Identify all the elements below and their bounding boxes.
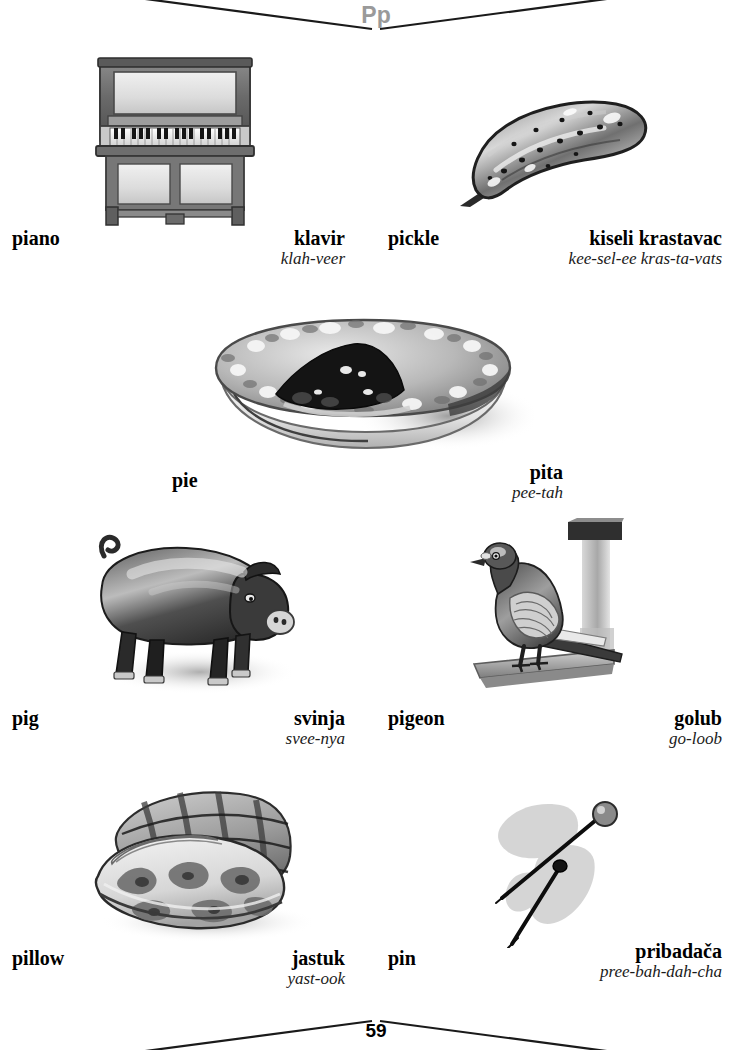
caption-pie-translation: pita pee-tah <box>380 462 563 502</box>
caption-pigeon-translation: golub go-loob <box>380 708 722 748</box>
caption-pig-translation: svinja svee-nya <box>0 708 345 748</box>
word-translation-kiseli-krastavac: kiseli krastavac <box>380 228 722 249</box>
caption-pin-translation: pribadača pree-bah-dah-cha <box>380 941 722 981</box>
pronunciation-jastuk: yast-ook <box>0 970 345 988</box>
caption-pillow-translation: jastuk yast-ook <box>0 948 345 988</box>
caption-pickle-translation: kiseli krastavac kee-sel-ee kras-ta-vats <box>380 228 722 268</box>
pigeon-illustration <box>454 518 648 704</box>
word-translation-klavir: klavir <box>0 228 345 249</box>
pickle-illustration <box>444 78 656 212</box>
page-number: 59 <box>0 1020 752 1042</box>
pig-illustration <box>74 522 306 698</box>
word-english-pie: pie <box>172 470 198 491</box>
pronunciation-klavir: klah-veer <box>0 250 345 268</box>
word-translation-svinja: svinja <box>0 708 345 729</box>
pillow-illustration <box>82 778 318 944</box>
letter-heading: Pp <box>0 2 752 29</box>
caption-pie-english: pie <box>172 470 198 491</box>
upright-piano-illustration <box>92 52 258 228</box>
word-translation-pribadaca: pribadača <box>380 941 722 962</box>
page-number-banner-bottom: 59 <box>0 1018 752 1050</box>
caption-piano-translation: klavir klah-veer <box>0 228 345 268</box>
pronunciation-pita: pee-tah <box>380 484 563 502</box>
letter-banner-top: Pp <box>0 0 752 32</box>
word-translation-pita: pita <box>380 462 563 483</box>
pronunciation-pribadaca: pree-bah-dah-cha <box>380 963 722 981</box>
pronunciation-golub: go-loob <box>380 730 722 748</box>
word-translation-golub: golub <box>380 708 722 729</box>
pronunciation-kiseli-krastavac: kee-sel-ee kras-ta-vats <box>380 250 722 268</box>
pie-illustration <box>198 312 534 460</box>
word-translation-jastuk: jastuk <box>0 948 345 969</box>
pronunciation-svinja: svee-nya <box>0 730 345 748</box>
pin-illustration <box>486 792 630 948</box>
